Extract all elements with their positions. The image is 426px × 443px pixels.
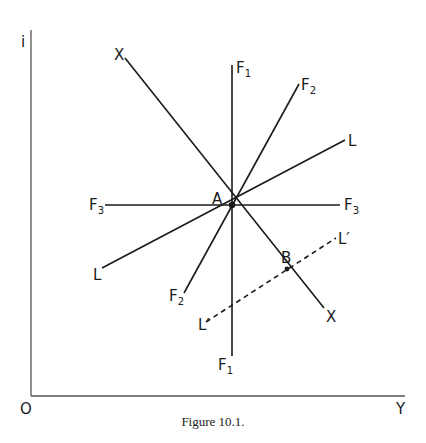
axis-label-y: Y xyxy=(395,400,406,418)
label-x-bottom: X xyxy=(326,308,336,326)
label-point-b: B xyxy=(281,249,291,267)
figure-caption: Figure 10.1. xyxy=(181,414,244,429)
label-l-left: L xyxy=(93,266,102,284)
point-a xyxy=(229,202,235,208)
axis-label-origin: O xyxy=(20,400,32,418)
line-l-prime xyxy=(206,238,336,322)
label-f2-bottom: F2 xyxy=(169,287,184,307)
label-f3-right: F3 xyxy=(344,196,359,216)
axis-label-i: i xyxy=(21,33,25,51)
label-l-prime-right: L′ xyxy=(338,230,350,248)
label-l-right: L xyxy=(348,132,357,150)
line-l xyxy=(102,140,345,268)
label-point-a: A xyxy=(212,190,223,208)
label-x-top: X xyxy=(114,46,124,64)
diagram-canvas: i O Y F1 F1 F2 F2 F3 F3 L L X X L′ L′ A … xyxy=(0,0,426,443)
label-f1-top: F1 xyxy=(236,59,251,79)
point-b xyxy=(285,267,290,272)
label-f2-top: F2 xyxy=(301,76,316,96)
label-l-prime-left: L′ xyxy=(198,316,210,334)
line-x xyxy=(125,58,324,308)
label-f1-bottom: F1 xyxy=(218,356,233,376)
label-f3-left: F3 xyxy=(89,196,104,216)
